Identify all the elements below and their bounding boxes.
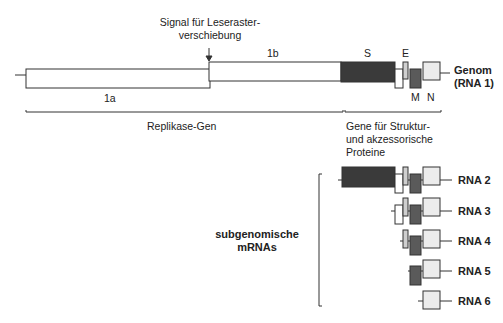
structural-label-line2: und akzessorische	[346, 133, 433, 146]
gene-e-label: E	[402, 47, 409, 60]
structural-label-line1: Gene für Struktur-	[346, 120, 433, 133]
structural-genes-label: Gene für Struktur- und akzessorische Pro…	[346, 120, 433, 159]
orf1b-label: 1b	[267, 47, 279, 60]
genome-label-line2: (RNA 1)	[454, 77, 494, 90]
rna3-transcript	[391, 198, 452, 224]
rna6-label: RNA 6	[458, 295, 491, 308]
rna4-transcript	[400, 230, 452, 255]
genome-label-line1: Genom	[454, 64, 494, 77]
rna3-label: RNA 3	[458, 205, 491, 218]
rna5-label: RNA 5	[458, 265, 491, 278]
genome-label: Genom (RNA 1)	[454, 64, 494, 90]
rna4-label: RNA 4	[458, 235, 491, 248]
orf1b-box	[209, 62, 341, 81]
gene-s-box	[341, 62, 395, 82]
subgenomic-bracket	[319, 174, 322, 306]
frameshift-line2: verschiebung	[150, 29, 270, 42]
subgenomic-mrnas-label: subgenomische mRNAs	[212, 228, 302, 254]
accessory-box	[395, 69, 403, 88]
rna2-transcript	[338, 167, 452, 193]
gene-e-box	[403, 62, 408, 79]
gene-s-label: S	[364, 47, 371, 60]
gene-m-label: M	[411, 91, 420, 104]
frameshift-signal-label: Signal für Leseraster- verschiebung	[150, 16, 270, 42]
coronavirus-genome-diagram	[0, 0, 503, 323]
orf1a-label: 1a	[104, 92, 116, 105]
orf1a-box	[26, 69, 210, 88]
gene-m-box	[410, 69, 421, 88]
rna2-label: RNA 2	[458, 174, 491, 187]
rna6-transcript	[418, 291, 452, 309]
structural-label-line3: Proteine	[346, 146, 433, 159]
replicase-bracket	[26, 110, 343, 112]
structural-bracket	[345, 110, 441, 112]
arrow-head-icon	[206, 56, 212, 61]
replicase-gene-label: Replikase-Gen	[147, 120, 216, 133]
rna5-transcript	[408, 260, 452, 285]
subgenomic-label-line1: subgenomische	[212, 228, 302, 241]
gene-n-label: N	[427, 91, 435, 104]
subgenomic-label-line2: mRNAs	[212, 241, 302, 254]
gene-n-box	[423, 62, 440, 80]
frameshift-line1: Signal für Leseraster-	[150, 16, 270, 29]
